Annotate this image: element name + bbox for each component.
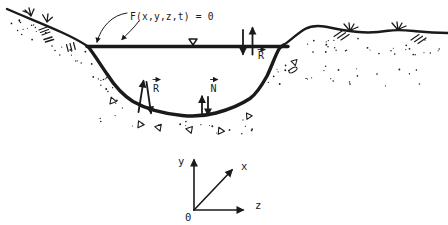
- stipple-dot: [19, 21, 20, 22]
- stipple-dot: [92, 76, 94, 78]
- stipple-dot: [132, 125, 133, 126]
- stipple-dot: [31, 25, 33, 27]
- stipple-dot: [376, 73, 378, 75]
- stipple-dot: [334, 47, 335, 48]
- stipple-dot: [327, 46, 329, 48]
- stipple-dot: [158, 124, 159, 125]
- stipple-dot: [80, 62, 81, 63]
- stipple-dot: [288, 70, 290, 72]
- stipple-dot: [409, 73, 410, 74]
- stipple-dot: [356, 68, 357, 69]
- stipple-dot: [357, 38, 359, 40]
- stipple-dot: [105, 78, 106, 79]
- stipple-dot: [416, 69, 418, 71]
- soil-triangle: [155, 122, 164, 131]
- surface-equation-label: F(x,y,z,t) = 0: [130, 11, 214, 22]
- stipple-dot: [357, 75, 359, 77]
- stipple-dot: [323, 70, 324, 71]
- y-axis-label: y: [178, 155, 184, 167]
- stipple-dot: [51, 45, 53, 47]
- stipple-dot: [394, 53, 396, 55]
- stipple-dot: [325, 44, 327, 46]
- coordinate-axes: [194, 160, 243, 210]
- stipple-dot: [77, 60, 78, 61]
- stipple-dot: [409, 48, 411, 50]
- stipple-dot: [98, 78, 99, 79]
- stipple-dot: [423, 52, 424, 53]
- stipple-dot: [100, 80, 101, 81]
- channel-cross-section-sketch: F(x,y,z,t) = 0 R R N y x z 0: [0, 0, 448, 225]
- stipple-dot: [276, 69, 277, 70]
- stipple-dot: [61, 47, 62, 48]
- stipple-dot: [185, 125, 186, 126]
- grass-tuft-icon: [392, 22, 406, 30]
- stipple-dot: [20, 22, 22, 24]
- stipple-dot: [17, 30, 19, 32]
- stipple-dot: [141, 123, 143, 125]
- stipple-dot: [200, 124, 201, 125]
- stipple-dot: [438, 48, 440, 50]
- stipple-dot: [415, 54, 416, 55]
- stipple-dot: [430, 52, 432, 54]
- origin-label: 0: [185, 211, 191, 223]
- grass-tuft-icon: [41, 13, 53, 23]
- stipple-dot: [326, 41, 327, 42]
- stipple-dot: [100, 121, 102, 123]
- stipple-dot: [69, 49, 71, 51]
- stipple-dot: [116, 100, 118, 102]
- stipple-dot: [107, 91, 109, 93]
- stipple-dot: [22, 29, 23, 30]
- hatch-group: [44, 37, 54, 42]
- stipple-dot: [31, 39, 33, 41]
- stipple-dot: [21, 34, 23, 36]
- stipple-dot: [35, 27, 36, 28]
- stipple-dot: [349, 83, 351, 85]
- stipple-dot: [59, 54, 60, 55]
- right-bank-line: [284, 26, 448, 45]
- stipple-dot: [106, 77, 108, 79]
- stipple-dot: [393, 48, 394, 49]
- leader-arrow-left: [97, 13, 127, 42]
- stipple-dot: [349, 81, 351, 83]
- stipple-dot: [45, 32, 47, 34]
- stipple-dot: [335, 50, 336, 51]
- stipple-dot: [330, 78, 331, 79]
- hatch-group: [39, 27, 50, 35]
- stipple-dot: [159, 129, 160, 130]
- stipple-dot: [54, 50, 56, 52]
- stipple-dot: [251, 128, 253, 130]
- stipple-dot: [33, 24, 34, 25]
- stipple-dot: [325, 51, 327, 53]
- stipple-dot: [305, 78, 306, 79]
- hatch-group: [411, 35, 426, 44]
- surface-r-vector-arrows: [243, 28, 253, 55]
- stipple-dot: [419, 83, 420, 84]
- stipple-dot: [209, 125, 210, 126]
- stipple-dot: [370, 50, 371, 51]
- n-vector-arrows: [202, 97, 208, 117]
- stipple-dot: [424, 39, 426, 41]
- stipple-dot: [91, 63, 93, 65]
- stipple-dot: [11, 23, 13, 25]
- stipple-dot: [438, 50, 439, 51]
- n-vector-label: N: [211, 83, 217, 94]
- stipple-dot: [71, 54, 72, 55]
- stipple-dot: [185, 121, 187, 123]
- grass-tuft-icon: [23, 8, 34, 16]
- stipple-dot: [211, 125, 213, 127]
- stipple-dot: [405, 44, 407, 46]
- stipple-dot: [245, 126, 246, 127]
- stipple-dot: [27, 28, 28, 29]
- soil-triangle: [246, 113, 252, 120]
- leader-arrow-right: [122, 21, 139, 40]
- stipple-dot: [390, 50, 392, 52]
- stipple-dot: [405, 49, 406, 50]
- stipple-dot: [114, 115, 115, 116]
- stipple-dots: [11, 19, 440, 134]
- stipple-dot: [378, 53, 380, 55]
- stipple-dot: [385, 85, 386, 86]
- stipple-dot: [36, 31, 37, 32]
- stipple-dot: [412, 54, 414, 56]
- stipple-dot: [311, 77, 312, 78]
- stipple-dot: [345, 50, 346, 51]
